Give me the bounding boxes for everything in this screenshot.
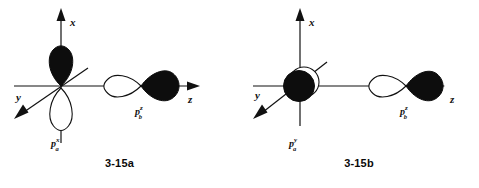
orbital-label-p-a-subscript: a xyxy=(293,145,297,152)
panel-3-15a: x z y pxa pzb 3-15a xyxy=(0,0,239,188)
orbital-label-p-a-superscript: x xyxy=(55,136,60,144)
orbital-label-p-b-subscript: b xyxy=(404,113,408,120)
orbital-p-a xyxy=(49,46,73,131)
orbital-label-p-b: pzb xyxy=(399,104,408,120)
orbital-p-b-open-lobe xyxy=(104,75,141,97)
panel-3-15b: x z y pya pzb 3-15b xyxy=(239,0,479,188)
orbital-p-a-filled-lobe xyxy=(49,46,73,86)
axis-label-x: x xyxy=(69,16,76,28)
diagram-3-15b: x z y pya pzb xyxy=(239,0,479,157)
axis-x-arrowhead xyxy=(57,8,66,21)
caption-3-15b: 3-15b xyxy=(239,157,479,169)
orbital-p-a-open-lobe xyxy=(50,88,72,131)
orbital-label-p-b-subscript: b xyxy=(139,113,143,120)
orbital-p-b-filled-lobe xyxy=(406,71,443,101)
orbital-label-p-a-subscript: a xyxy=(56,145,60,152)
axis-label-x: x xyxy=(308,16,315,28)
caption-3-15a: 3-15a xyxy=(0,157,239,169)
axis-y-arrowhead xyxy=(253,105,268,120)
orbital-p-b-filled-lobe xyxy=(141,71,179,101)
orbital-figure: x z y pxa pzb 3-15a xyxy=(0,0,479,188)
orbital-p-b-open-lobe xyxy=(369,75,406,97)
diagram-3-15a: x z y pxa pzb xyxy=(0,0,239,157)
orbital-label-p-b: pzb xyxy=(134,104,143,120)
orbital-p-b xyxy=(369,71,443,101)
axis-label-y: y xyxy=(253,89,260,101)
axis-label-y: y xyxy=(14,91,21,103)
axis-label-z: z xyxy=(187,93,193,105)
orbital-p-a xyxy=(284,67,320,102)
orbital-p-a-filled-lobe xyxy=(284,71,315,102)
orbital-label-p-a: pxa xyxy=(50,136,60,152)
orbital-label-p-b-superscript: z xyxy=(404,104,408,112)
orbital-label-p-b-superscript: z xyxy=(139,104,143,112)
orbital-p-b xyxy=(104,71,179,101)
axis-x-arrowhead xyxy=(296,8,305,21)
orbital-label-p-a-superscript: y xyxy=(293,136,298,144)
axis-label-z: z xyxy=(449,93,455,105)
axis-y-arrowhead xyxy=(14,105,29,120)
axis-z-arrowhead xyxy=(187,82,200,91)
orbital-label-p-a: pya xyxy=(288,136,298,152)
